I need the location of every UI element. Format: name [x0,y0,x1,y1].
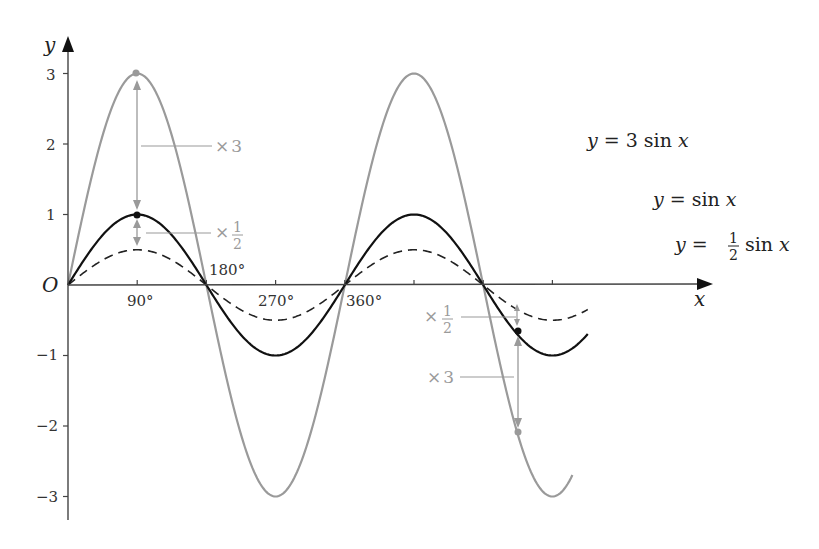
y-tick-label-3: 3 [46,66,56,84]
x-tick-label-90: 90° [127,292,154,310]
svg-text:×: × [424,306,438,326]
point-3sin [515,429,522,436]
y-tick-label-m2: −2 [36,417,58,435]
y-axis-label: y [43,33,56,57]
x-tick-label-270: 270° [258,292,294,310]
annotation-left [133,70,213,247]
arrow-down-icon [133,237,141,246]
x-tick-label-180: 180° [209,261,245,279]
svg-text:1: 1 [729,230,738,246]
x-axis-line [68,284,700,285]
arrow-down-icon [514,319,520,326]
svg-text:2: 2 [443,320,452,336]
y-tick-label-1: 1 [46,206,56,224]
arrow-up-icon [133,80,141,90]
origin-label: O [42,273,58,297]
annotation-label-times-3-left: ×3 [215,136,242,156]
legend-3-sin-x: y = 3 sin x [586,129,689,151]
y-tick-label-m3: −3 [36,488,58,506]
svg-text:2: 2 [729,247,738,263]
point-sin-peak [134,212,141,219]
svg-text:1: 1 [233,219,242,235]
svg-text:1: 1 [443,303,452,319]
y-ticks [63,74,68,497]
x-tick-label-360: 360° [346,292,382,310]
point-sin [515,328,522,335]
arrow-down-icon [133,200,141,210]
sine-amplitude-chart: y x O 90° 180° 270° 360° 3 2 1 −1 −2 −3 … [0,0,819,549]
x-axis-label: x [694,287,705,311]
annotation-label-times-half-right: × 1 2 [424,303,453,336]
svg-text:×: × [215,222,229,242]
svg-text:sin x: sin x [745,233,790,255]
y-axis-arrow-icon [62,36,74,52]
annotation-label-times-half-left: × 1 2 [215,219,243,252]
annotation-label-times-3-right: ×3 [427,367,454,387]
arrow-up-icon [133,219,141,228]
y-tick-label-m1: −1 [36,346,58,364]
y-tick-label-2: 2 [46,136,56,154]
legend-half-sin-x: y = 1 2 sin x [674,230,790,263]
legend-sin-x: y = sin x [652,188,737,210]
svg-text:y =: y = [674,233,708,255]
point-3sin-peak [133,70,140,77]
svg-text:2: 2 [233,236,242,252]
